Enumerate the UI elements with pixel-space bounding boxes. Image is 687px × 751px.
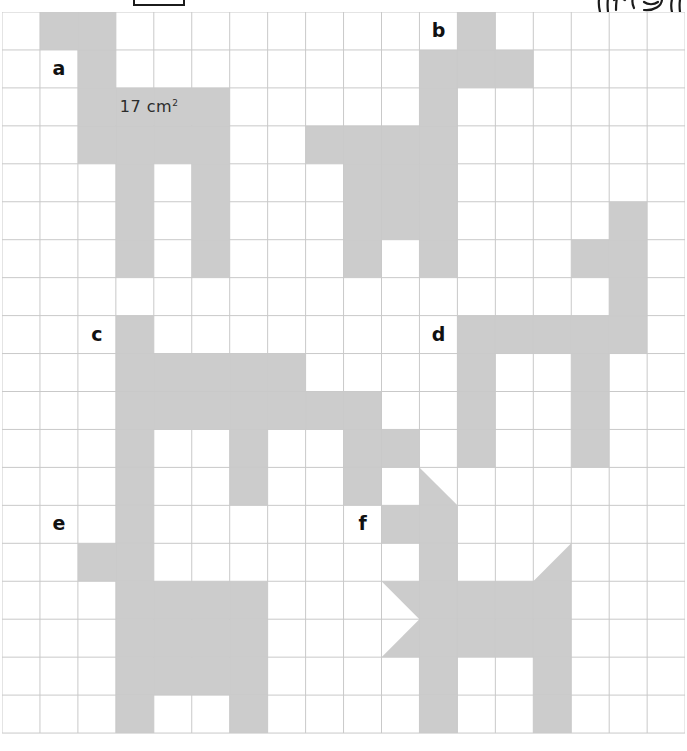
shaded-cell[interactable]: [78, 50, 116, 88]
shaded-cell[interactable]: [344, 392, 382, 430]
shaded-cell[interactable]: [609, 316, 647, 354]
shaded-cell[interactable]: [154, 619, 192, 657]
shaded-cell[interactable]: [116, 126, 154, 164]
shaded-cell[interactable]: [116, 164, 154, 202]
shaded-cell[interactable]: [533, 581, 571, 619]
shaded-cell[interactable]: [192, 354, 230, 392]
shaded-cell[interactable]: [116, 505, 154, 543]
shaded-cell[interactable]: [268, 354, 306, 392]
shaded-cell[interactable]: [382, 164, 420, 202]
shaded-cell[interactable]: [571, 429, 609, 467]
shaded-cell[interactable]: [419, 126, 457, 164]
shaded-cell[interactable]: [495, 316, 533, 354]
shaded-cell[interactable]: [419, 88, 457, 126]
shaded-cell[interactable]: [457, 316, 495, 354]
shaded-cell[interactable]: [78, 88, 116, 126]
shaded-cell[interactable]: [192, 657, 230, 695]
shaded-cell[interactable]: [230, 429, 268, 467]
shaded-cell[interactable]: [533, 695, 571, 733]
shaded-cell[interactable]: [457, 619, 495, 657]
shaded-cell[interactable]: [192, 619, 230, 657]
shaded-cell[interactable]: [382, 505, 420, 543]
shaded-cell[interactable]: [192, 126, 230, 164]
shaded-cell[interactable]: [344, 429, 382, 467]
shaded-cell[interactable]: [192, 164, 230, 202]
shaded-cell[interactable]: [78, 543, 116, 581]
shaded-cell[interactable]: [230, 354, 268, 392]
shaded-cell[interactable]: [419, 202, 457, 240]
shaded-cell[interactable]: [571, 240, 609, 278]
shaded-cell[interactable]: [116, 619, 154, 657]
shaded-cell[interactable]: [192, 88, 230, 126]
shaded-cell[interactable]: [154, 354, 192, 392]
shaded-cell[interactable]: [116, 392, 154, 430]
shaded-cell[interactable]: [154, 126, 192, 164]
shaded-cell[interactable]: [533, 619, 571, 657]
shaded-cell[interactable]: [609, 240, 647, 278]
shaded-cell[interactable]: [306, 126, 344, 164]
shaded-cell[interactable]: [116, 657, 154, 695]
shaded-cell[interactable]: [495, 50, 533, 88]
shaded-cell[interactable]: [116, 695, 154, 733]
shaded-cell[interactable]: [344, 202, 382, 240]
shaded-cell[interactable]: [609, 278, 647, 316]
shaded-cell[interactable]: [230, 619, 268, 657]
shaded-cell[interactable]: [116, 543, 154, 581]
shaded-cell[interactable]: [382, 429, 420, 467]
shaded-cell[interactable]: [382, 126, 420, 164]
shaded-cell[interactable]: [230, 695, 268, 733]
shaded-cell[interactable]: [78, 12, 116, 50]
shaded-cell[interactable]: [116, 429, 154, 467]
shaded-cell[interactable]: [457, 429, 495, 467]
shaded-cell[interactable]: [609, 202, 647, 240]
shaded-cell[interactable]: [344, 240, 382, 278]
shaded-cell[interactable]: [419, 164, 457, 202]
shaded-cell[interactable]: [382, 202, 420, 240]
shaded-cell[interactable]: [571, 316, 609, 354]
shaded-cell[interactable]: [457, 392, 495, 430]
shaded-cell[interactable]: [154, 581, 192, 619]
shaded-cell[interactable]: [78, 126, 116, 164]
shaded-cell[interactable]: [306, 392, 344, 430]
shaded-cell[interactable]: [457, 50, 495, 88]
shaded-cell[interactable]: [230, 467, 268, 505]
shaded-cell[interactable]: [116, 581, 154, 619]
shaded-cell[interactable]: [419, 50, 457, 88]
shaded-cell[interactable]: [344, 126, 382, 164]
shaded-cell[interactable]: [230, 657, 268, 695]
shaded-cell[interactable]: [344, 164, 382, 202]
shaded-cell[interactable]: [192, 392, 230, 430]
shaded-cell[interactable]: [533, 657, 571, 695]
shaded-cell[interactable]: [344, 467, 382, 505]
shaded-cell[interactable]: [457, 354, 495, 392]
shaded-cell[interactable]: [533, 316, 571, 354]
shaded-cell[interactable]: [571, 354, 609, 392]
shaded-cell[interactable]: [192, 202, 230, 240]
shaded-cell[interactable]: [419, 657, 457, 695]
shaded-cell[interactable]: [419, 505, 457, 543]
shaded-cell[interactable]: [116, 240, 154, 278]
shaded-cell[interactable]: [116, 202, 154, 240]
shaded-cell[interactable]: [230, 392, 268, 430]
shaded-cell[interactable]: [116, 467, 154, 505]
shaded-cell[interactable]: [419, 543, 457, 581]
shaded-cell[interactable]: [457, 581, 495, 619]
shaded-cell[interactable]: [230, 581, 268, 619]
shaded-cell[interactable]: [457, 12, 495, 50]
shaded-cell[interactable]: [419, 240, 457, 278]
shaded-cell[interactable]: [419, 619, 457, 657]
shaded-cell[interactable]: [419, 695, 457, 733]
answer-box[interactable]: [133, 0, 185, 6]
shaded-cell[interactable]: [116, 354, 154, 392]
shaded-cell[interactable]: [571, 392, 609, 430]
shaded-cell[interactable]: [495, 619, 533, 657]
shaded-cell[interactable]: [154, 657, 192, 695]
shaded-cell[interactable]: [154, 392, 192, 430]
shaded-cell[interactable]: [192, 240, 230, 278]
shaded-cell[interactable]: [419, 581, 457, 619]
shaded-cell[interactable]: [495, 581, 533, 619]
shaded-cell[interactable]: [40, 12, 78, 50]
shaded-cell[interactable]: [268, 392, 306, 430]
shaded-cell[interactable]: [192, 581, 230, 619]
shaded-cell[interactable]: [116, 316, 154, 354]
